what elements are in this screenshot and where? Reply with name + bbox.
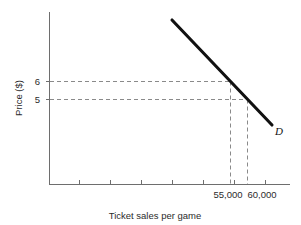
- x-tick-label-60000: 60,000: [247, 189, 276, 200]
- demand-curve-figure: 6 5 55,000 60,000 Price ($) Ticket sales…: [0, 0, 301, 225]
- x-axis-title: Ticket sales per game: [109, 210, 202, 221]
- x-tick-label-55000: 55,000: [213, 189, 242, 200]
- y-axis-title: Price ($): [13, 80, 24, 116]
- demand-curve-line: [172, 20, 272, 125]
- chart-canvas: 6 5 55,000 60,000 Price ($) Ticket sales…: [0, 0, 301, 225]
- y-tick-label-5: 5: [35, 94, 40, 105]
- demand-curve-label: D: [274, 125, 283, 137]
- y-tick-label-6: 6: [35, 76, 40, 87]
- x-axis-ticks: [80, 180, 266, 185]
